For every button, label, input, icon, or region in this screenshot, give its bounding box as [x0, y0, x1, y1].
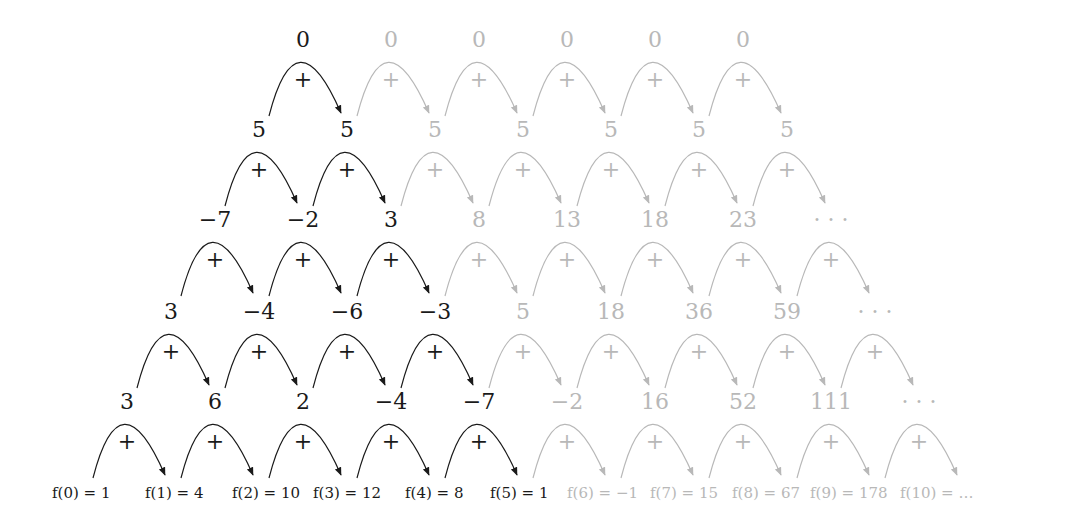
- node-value: −4: [243, 301, 275, 323]
- plus-operator: +: [470, 69, 488, 91]
- node-value: 8: [472, 209, 486, 231]
- plus-operator: +: [294, 69, 312, 91]
- function-value: f(9) = 178: [810, 486, 888, 501]
- node-value: 3: [164, 301, 178, 323]
- plus-operator: +: [382, 69, 400, 91]
- function-value: f(5) = 1: [490, 486, 548, 501]
- plus-operator: +: [646, 249, 664, 271]
- plus-operator: +: [338, 159, 356, 181]
- node-value: 5: [428, 119, 442, 141]
- plus-operator: +: [646, 431, 664, 453]
- node-value: 52: [729, 391, 757, 413]
- node-value: 5: [692, 119, 706, 141]
- function-value: f(0) = 1: [52, 486, 110, 501]
- plus-operator: +: [734, 69, 752, 91]
- node-value: 59: [773, 301, 801, 323]
- node-value: 5: [604, 119, 618, 141]
- plus-operator: +: [602, 159, 620, 181]
- plus-operator: +: [250, 341, 268, 363]
- plus-operator: +: [558, 431, 576, 453]
- node-value: 18: [641, 209, 669, 231]
- plus-operator: +: [734, 249, 752, 271]
- plus-operator: +: [558, 249, 576, 271]
- plus-operator: +: [294, 431, 312, 453]
- function-value: f(1) = 4: [145, 486, 203, 501]
- plus-operator: +: [690, 159, 708, 181]
- node-value: 0: [472, 29, 486, 51]
- plus-operator: +: [514, 159, 532, 181]
- plus-operator: +: [646, 69, 664, 91]
- plus-operator: +: [734, 431, 752, 453]
- plus-operator: +: [426, 341, 444, 363]
- node-value: · · ·: [814, 209, 849, 231]
- node-value: 18: [597, 301, 625, 323]
- plus-operator: +: [250, 159, 268, 181]
- node-value: · · ·: [858, 301, 893, 323]
- plus-operator: +: [602, 341, 620, 363]
- plus-operator: +: [294, 249, 312, 271]
- node-value: 2: [296, 391, 310, 413]
- node-value: 0: [560, 29, 574, 51]
- plus-operator: +: [822, 431, 840, 453]
- function-value: f(3) = 12: [313, 486, 381, 501]
- node-value: 3: [384, 209, 398, 231]
- node-value: 0: [384, 29, 398, 51]
- node-value: 6: [208, 391, 222, 413]
- node-value: −2: [551, 391, 583, 413]
- plus-operator: +: [778, 341, 796, 363]
- node-value: 5: [516, 119, 530, 141]
- function-value: f(4) = 8: [405, 486, 463, 501]
- node-value: 0: [648, 29, 662, 51]
- plus-operator: +: [514, 341, 532, 363]
- node-value: −3: [419, 301, 451, 323]
- node-value: 36: [685, 301, 713, 323]
- plus-operator: +: [206, 431, 224, 453]
- node-value: −2: [287, 209, 319, 231]
- plus-operator: +: [470, 431, 488, 453]
- node-value: · · ·: [902, 391, 937, 413]
- node-value: −4: [375, 391, 407, 413]
- node-value: 0: [296, 29, 310, 51]
- node-value: 23: [729, 209, 757, 231]
- node-value: −6: [331, 301, 363, 323]
- function-value: f(6) = −1: [567, 486, 638, 501]
- function-value: f(2) = 10: [232, 486, 300, 501]
- plus-operator: +: [470, 249, 488, 271]
- node-value: 5: [780, 119, 794, 141]
- plus-operator: +: [118, 431, 136, 453]
- plus-operator: +: [910, 431, 928, 453]
- function-value: f(7) = 15: [650, 486, 718, 501]
- plus-operator: +: [338, 341, 356, 363]
- node-value: 111: [810, 391, 852, 413]
- plus-operator: +: [382, 249, 400, 271]
- arcs-layer: [0, 0, 1067, 522]
- node-value: 13: [553, 209, 581, 231]
- plus-operator: +: [558, 69, 576, 91]
- node-value: −7: [199, 209, 231, 231]
- node-value: 5: [340, 119, 354, 141]
- node-value: 3: [120, 391, 134, 413]
- node-value: 0: [736, 29, 750, 51]
- node-value: 16: [641, 391, 669, 413]
- node-value: 5: [516, 301, 530, 323]
- node-value: 5: [252, 119, 266, 141]
- plus-operator: +: [690, 341, 708, 363]
- plus-operator: +: [382, 431, 400, 453]
- plus-operator: +: [206, 249, 224, 271]
- plus-operator: +: [162, 341, 180, 363]
- plus-operator: +: [778, 159, 796, 181]
- plus-operator: +: [426, 159, 444, 181]
- plus-operator: +: [866, 341, 884, 363]
- plus-operator: +: [822, 249, 840, 271]
- function-value: f(8) = 67: [732, 486, 800, 501]
- node-value: −7: [463, 391, 495, 413]
- function-value: f(10) = …: [900, 486, 973, 501]
